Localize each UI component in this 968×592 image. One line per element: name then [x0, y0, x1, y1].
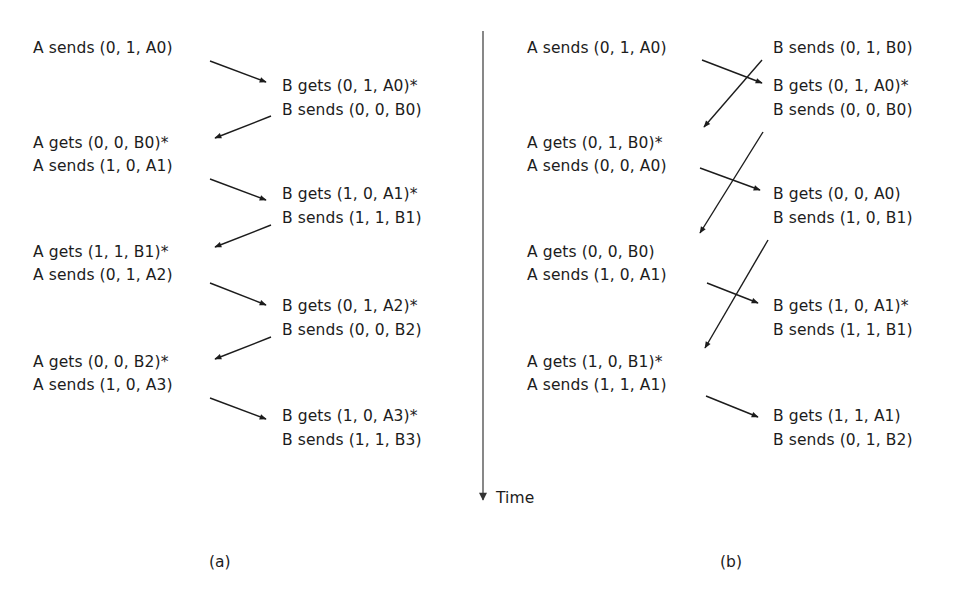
event-label: B sends (1, 1, B1)	[773, 321, 913, 339]
event-label: B gets (1, 1, A1)	[773, 407, 901, 425]
event-label: B sends (1, 1, B1)	[282, 209, 422, 227]
event-label: A gets (0, 0, B2)*	[33, 353, 169, 371]
event-label: A gets (0, 1, B0)*	[527, 134, 663, 152]
message-arrow	[700, 168, 760, 190]
message-arrow	[700, 132, 763, 233]
event-label: B sends (0, 1, B2)	[773, 431, 913, 449]
message-arrow	[210, 179, 266, 200]
event-label: B gets (0, 0, A0)	[773, 185, 901, 203]
event-label: A sends (0, 0, A0)	[527, 157, 667, 175]
event-label: B sends (1, 0, B1)	[773, 209, 913, 227]
event-label: A gets (1, 0, B1)*	[527, 353, 663, 371]
event-label: B sends (0, 0, B0)	[282, 101, 422, 119]
event-label: A sends (1, 0, A3)	[33, 376, 173, 394]
event-label: B sends (0, 1, B0)	[773, 39, 913, 57]
event-label: A sends (1, 0, A1)	[527, 266, 667, 284]
event-label: A gets (1, 1, B1)*	[33, 243, 169, 261]
message-arrow	[210, 398, 266, 419]
event-label: A sends (1, 0, A1)	[33, 157, 173, 175]
event-label: B gets (0, 1, A2)*	[282, 297, 418, 315]
message-arrow	[706, 396, 758, 417]
event-label: A gets (0, 0, B0)*	[33, 134, 169, 152]
message-arrow	[704, 60, 762, 127]
message-arrow	[705, 240, 768, 348]
message-arrow	[215, 225, 271, 247]
event-label: B gets (1, 0, A1)*	[282, 185, 418, 203]
event-label: B gets (0, 1, A0)*	[282, 77, 418, 95]
event-label: B gets (1, 0, A3)*	[282, 407, 418, 425]
event-label: A sends (0, 1, A0)	[527, 39, 667, 57]
event-label: B gets (0, 1, A0)*	[773, 77, 909, 95]
event-label: B gets (1, 0, A1)*	[773, 297, 909, 315]
panel-a-caption: (a)	[209, 553, 231, 571]
event-label: B sends (1, 1, B3)	[282, 431, 422, 449]
message-arrow	[215, 337, 271, 359]
event-label: A gets (0, 0, B0)	[527, 243, 655, 261]
message-arrow	[210, 283, 266, 305]
event-label: A sends (1, 1, A1)	[527, 376, 667, 394]
event-label: B sends (0, 0, B2)	[282, 321, 422, 339]
panel-b-caption: (b)	[720, 553, 742, 571]
event-label: A sends (0, 1, A2)	[33, 266, 173, 284]
message-arrow	[702, 60, 762, 83]
event-label: B sends (0, 0, B0)	[773, 101, 913, 119]
message-arrow	[215, 116, 271, 138]
time-axis-label: Time	[496, 489, 534, 507]
message-arrow	[210, 61, 266, 82]
event-label: A sends (0, 1, A0)	[33, 39, 173, 57]
